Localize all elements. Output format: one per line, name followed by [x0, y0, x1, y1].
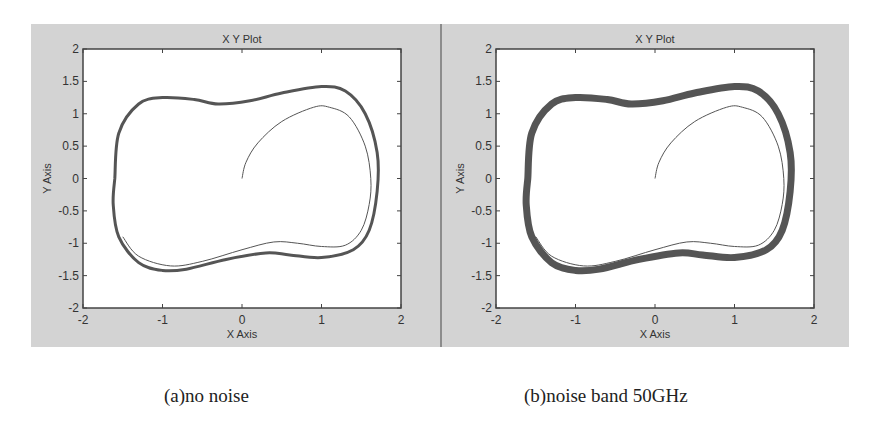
x-tick-label: -1: [157, 313, 168, 327]
chart-title: X Y Plot: [222, 33, 261, 45]
y-tick-label: -1: [68, 236, 79, 250]
y-axis-label: Y Axis: [41, 163, 53, 194]
x-tick-label: 0: [239, 313, 246, 327]
x-tick-label: 2: [811, 313, 818, 327]
y-tick-label: 1: [485, 107, 492, 121]
x-tick-label: -2: [78, 313, 89, 327]
xy-plots: -2-101221.510.50-0.5-1-1.5-2X Y PlotX Ax…: [0, 0, 874, 431]
x-tick-label: 1: [731, 313, 738, 327]
y-tick-label: -0.5: [58, 204, 79, 218]
y-tick-label: 0.5: [62, 139, 79, 153]
y-tick-label: -2: [481, 301, 492, 315]
y-tick-label: -1.5: [58, 269, 79, 283]
x-axis-label: X Axis: [227, 328, 258, 340]
x-tick-label: 2: [398, 313, 405, 327]
chart-title: X Y Plot: [635, 33, 674, 45]
y-tick-label: 1.5: [475, 74, 492, 88]
y-tick-label: 0: [72, 172, 79, 186]
y-axis-label: Y Axis: [454, 163, 466, 194]
x-tick-label: -1: [570, 313, 581, 327]
y-tick-label: 0.5: [475, 139, 492, 153]
y-tick-label: 1: [72, 107, 79, 121]
y-tick-label: 1.5: [62, 74, 79, 88]
y-tick-label: -2: [68, 301, 79, 315]
y-tick-label: 2: [72, 42, 79, 56]
y-tick-label: -1: [481, 236, 492, 250]
y-tick-label: -1.5: [471, 269, 492, 283]
y-tick-label: 0: [485, 172, 492, 186]
y-tick-label: 2: [485, 42, 492, 56]
x-tick-label: 1: [318, 313, 325, 327]
x-tick-label: -2: [491, 313, 502, 327]
caption-a: (a)no noise: [164, 385, 249, 407]
caption-b: (b)noise band 50GHz: [524, 385, 688, 407]
x-tick-label: 0: [652, 313, 659, 327]
x-axis-label: X Axis: [640, 328, 671, 340]
y-tick-label: -0.5: [471, 204, 492, 218]
